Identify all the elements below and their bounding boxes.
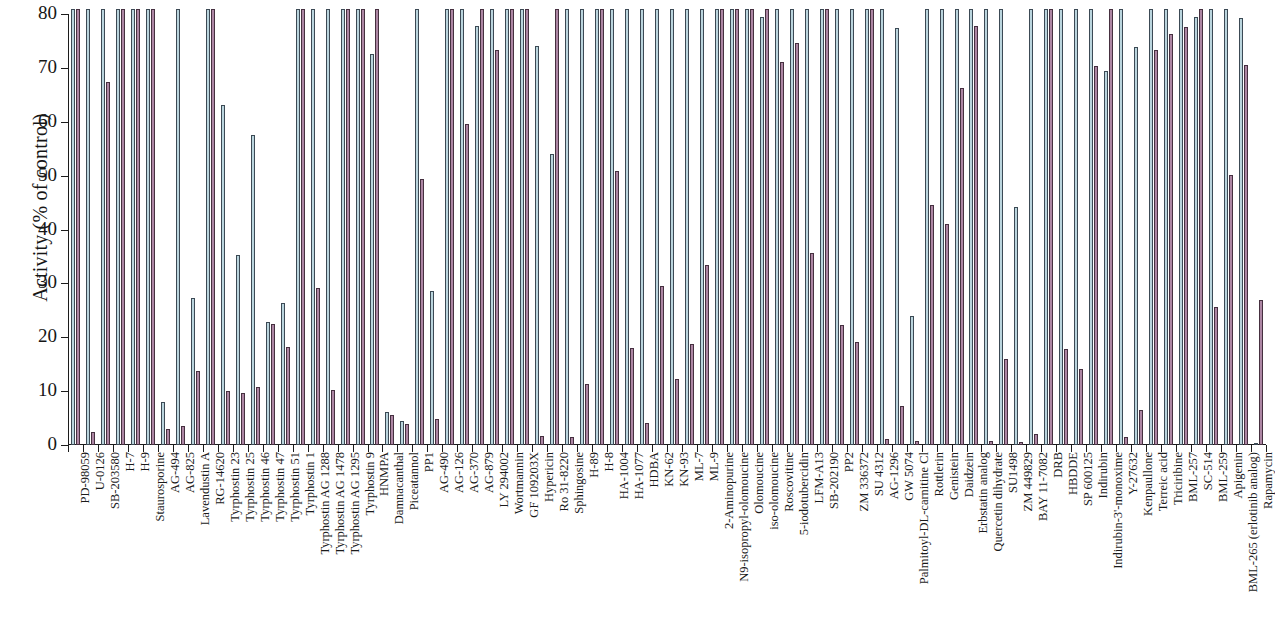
bar-series_1[interactable] [955,9,959,445]
bar-series_1[interactable] [850,9,854,445]
bar-series_2[interactable] [121,9,125,445]
bar-group[interactable] [1224,14,1233,445]
bar-group[interactable] [999,14,1008,445]
bar-series_2[interactable] [76,9,80,445]
bar-group[interactable] [221,14,230,445]
bar-group[interactable] [595,14,604,445]
bar-series_1[interactable] [999,9,1003,445]
bar-group[interactable] [760,14,769,445]
bar-series_2[interactable] [1139,410,1143,445]
bar-series_2[interactable] [1169,34,1173,445]
bar-series_1[interactable] [715,9,719,445]
bar-group[interactable] [430,14,439,445]
bar-series_2[interactable] [211,9,215,445]
bar-series_2[interactable] [1259,300,1263,445]
bar-series_2[interactable] [765,9,769,445]
bar-group[interactable] [161,14,170,445]
bar-group[interactable] [311,14,320,445]
bar-series_2[interactable] [780,62,784,445]
bar-group[interactable] [385,14,394,445]
bar-series_2[interactable] [585,384,589,445]
bar-group[interactable] [730,14,739,445]
bar-series_2[interactable] [1214,307,1218,445]
bar-group[interactable] [520,14,529,445]
bar-series_1[interactable] [835,9,839,445]
bar-series_1[interactable] [745,9,749,445]
bar-series_2[interactable] [136,9,140,445]
bar-group[interactable] [610,14,619,445]
bar-series_2[interactable] [840,325,844,445]
bar-series_2[interactable] [480,9,484,445]
bar-group[interactable] [341,14,350,445]
bar-series_2[interactable] [331,390,335,445]
bar-group[interactable] [1164,14,1173,445]
bar-series_1[interactable] [505,9,509,445]
bar-series_1[interactable] [415,9,419,445]
bar-series_1[interactable] [1059,9,1063,445]
bar-series_1[interactable] [910,316,914,445]
bar-group[interactable] [625,14,634,445]
bar-group[interactable] [1134,14,1143,445]
bar-group[interactable] [206,14,215,445]
bar-group[interactable] [565,14,574,445]
bar-series_1[interactable] [760,17,764,445]
bar-series_2[interactable] [1109,9,1113,445]
bar-series_2[interactable] [390,415,394,445]
bar-group[interactable] [1179,14,1188,445]
bar-series_2[interactable] [720,9,724,445]
bar-series_2[interactable] [525,9,529,445]
bar-group[interactable] [445,14,454,445]
bar-series_2[interactable] [945,224,949,445]
bar-series_2[interactable] [705,265,709,445]
bar-series_2[interactable] [645,423,649,445]
bar-series_2[interactable] [405,424,409,445]
bar-series_2[interactable] [960,88,964,445]
bar-series_1[interactable] [775,9,779,445]
bar-series_2[interactable] [151,9,155,445]
bar-series_1[interactable] [805,9,809,445]
bar-group[interactable] [1194,14,1203,445]
bar-series_2[interactable] [540,436,544,445]
bar-series_2[interactable] [615,171,619,445]
bar-series_2[interactable] [1034,434,1038,445]
bar-series_1[interactable] [221,105,225,445]
bar-group[interactable] [1044,14,1053,445]
bar-series_2[interactable] [630,348,634,445]
bar-series_2[interactable] [1244,65,1248,445]
bar-series_2[interactable] [735,9,739,445]
bar-series_1[interactable] [191,298,195,445]
bar-series_2[interactable] [900,406,904,445]
bar-group[interactable] [251,14,260,445]
bar-group[interactable] [400,14,409,445]
bar-group[interactable] [1119,14,1128,445]
bar-series_2[interactable] [301,9,305,445]
bar-series_1[interactable] [430,291,434,445]
bar-series_1[interactable] [670,9,674,445]
bar-group[interactable] [580,14,589,445]
bar-series_2[interactable] [286,347,290,445]
bar-series_1[interactable] [161,402,165,445]
bar-series_2[interactable] [450,9,454,445]
bar-series_2[interactable] [316,288,320,445]
bar-series_2[interactable] [555,9,559,445]
bar-series_2[interactable] [870,9,874,445]
bar-series_1[interactable] [550,154,554,445]
bar-group[interactable] [640,14,649,445]
bar-series_1[interactable] [610,9,614,445]
bar-series_2[interactable] [495,50,499,445]
bar-group[interactable] [880,14,889,445]
bar-series_1[interactable] [1194,17,1198,445]
bar-series_1[interactable] [1029,9,1033,445]
bar-series_2[interactable] [600,9,604,445]
bar-series_1[interactable] [251,135,255,445]
bar-series_1[interactable] [880,9,884,445]
bar-series_1[interactable] [146,9,150,445]
bar-series_1[interactable] [86,9,90,445]
bar-series_1[interactable] [475,26,479,445]
bar-group[interactable] [146,14,155,445]
bar-series_2[interactable] [989,441,993,445]
bar-group[interactable] [1104,14,1113,445]
bar-series_1[interactable] [655,9,659,445]
bar-series_1[interactable] [116,9,120,445]
bar-series_1[interactable] [1089,9,1093,445]
